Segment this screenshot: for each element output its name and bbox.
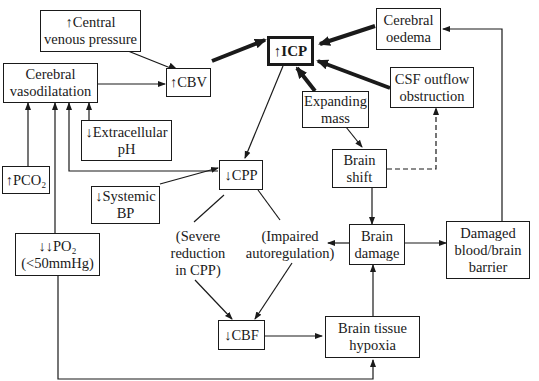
node-text: Brain tissue	[338, 320, 407, 337]
node-text: ↑PCO₂	[6, 172, 47, 189]
node-central-venous-pressure: ↑Central venous pressure	[40, 10, 141, 52]
node-expanding-mass: Expanding mass	[302, 91, 369, 128]
edge-severe-cbf	[195, 280, 232, 319]
node-cerebral-oedema: Cerebral oedema	[376, 8, 441, 50]
node-brain-damage: Brain damage	[349, 224, 405, 265]
node-text: vasodilatation	[10, 83, 91, 100]
node-icp: ↑ICP	[267, 36, 314, 66]
node-text: damage	[354, 245, 399, 262]
node-text: pH	[118, 141, 136, 158]
node-systemic-bp: ↓Systemic BP	[91, 186, 160, 224]
node-text: Expanding	[304, 93, 367, 110]
node-pco2: ↑PCO₂	[2, 166, 50, 194]
node-text: oedema	[386, 29, 431, 46]
node-text: ↓Extracellular	[85, 124, 167, 141]
label-text: reduction	[163, 245, 233, 262]
label-text: (Severe	[163, 228, 233, 245]
edge-mass-shift	[346, 127, 362, 147]
label-severe-reduction: (Severe reduction in CPP)	[163, 228, 233, 279]
node-brain-shift: Brain shift	[332, 149, 387, 188]
node-text: ↑CBV	[170, 74, 207, 91]
node-text: ↓CPP	[224, 167, 257, 184]
node-text: mass	[321, 110, 350, 127]
node-text: barrier	[469, 259, 508, 276]
edge-csf-icp	[318, 61, 390, 88]
node-text: ↓CBF	[224, 327, 259, 344]
node-text: hypoxia	[349, 337, 396, 354]
edge-mass-icp	[297, 68, 315, 91]
node-cerebral-vasodilatation: Cerebral vasodilatation	[3, 63, 98, 103]
label-text: autoregulation)	[240, 245, 340, 262]
edge-cpp-impaired	[258, 190, 280, 220]
node-text: shift	[347, 169, 373, 186]
node-text: Brain	[343, 152, 375, 169]
node-cbf: ↓CBF	[218, 320, 265, 350]
node-text: Brain	[361, 228, 393, 245]
node-text: Damaged	[460, 225, 516, 242]
node-text: Cerebral	[26, 66, 76, 83]
label-text: in CPP)	[163, 262, 233, 279]
node-damaged-bbb: Damaged blood/brain barrier	[446, 221, 530, 279]
node-text: (<50mmHg)	[21, 255, 94, 272]
node-text: ↑ICP	[274, 43, 307, 60]
node-text: BP	[117, 205, 135, 222]
edge-cpp-severe	[194, 195, 224, 222]
node-text: venous pressure	[44, 31, 137, 48]
edge-shift-csf	[387, 108, 436, 169]
edge-oedema-icp	[320, 26, 375, 44]
node-csf-outflow-obstruction: CSF outflow obstruction	[390, 67, 474, 108]
edge-icp-cpp	[245, 66, 283, 158]
label-impaired-autoregulation: (Impaired autoregulation)	[240, 228, 340, 262]
node-text: ↑Central	[66, 14, 116, 31]
node-text: obstruction	[399, 88, 464, 105]
node-text: blood/brain	[455, 242, 522, 259]
node-text: ↓↓PO₂	[38, 238, 76, 255]
edge-bbb-oedema	[443, 29, 502, 221]
node-text: CSF outflow	[395, 71, 470, 88]
node-text: Cerebral	[384, 12, 434, 29]
node-cbv: ↑CBV	[166, 68, 211, 97]
node-brain-tissue-hypoxia: Brain tissue hypoxia	[325, 316, 420, 358]
node-extracellular-ph: ↓Extracellular pH	[81, 120, 172, 161]
node-cpp: ↓CPP	[219, 160, 263, 190]
node-po2: ↓↓PO₂ (<50mmHg)	[15, 233, 100, 276]
label-text: (Impaired	[240, 228, 340, 245]
edge-cbv-icp	[212, 40, 265, 61]
edge-impaired-cbf	[255, 263, 292, 319]
node-text: ↓Systemic	[95, 188, 155, 205]
